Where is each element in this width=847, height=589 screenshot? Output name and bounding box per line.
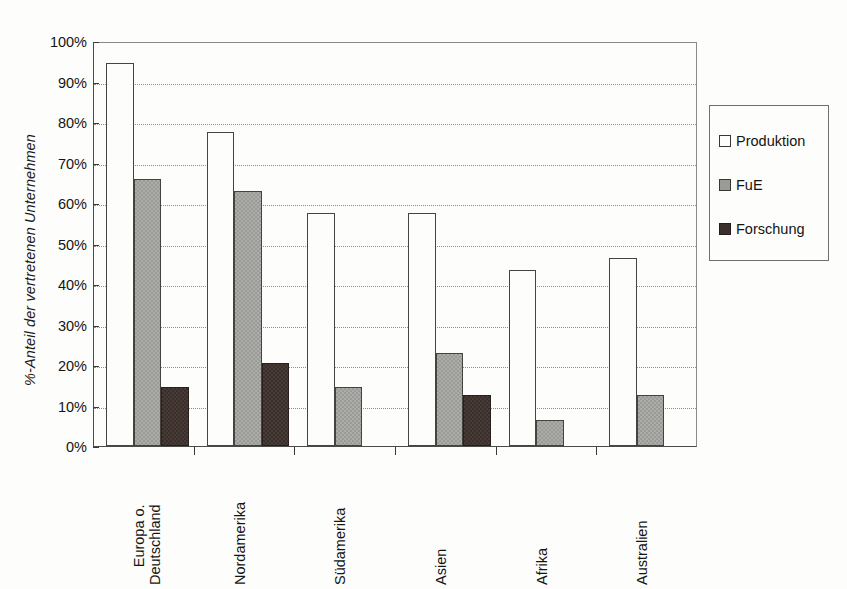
y-tick-mark-50: [93, 245, 99, 246]
legend-swatch-produktion-icon: [719, 135, 731, 147]
gridline-60: [94, 205, 696, 206]
x-tick-label-line: Europa o.: [131, 504, 147, 585]
x-tick-label-4: Afrika: [534, 548, 550, 585]
x-tick-label-line: Afrika: [534, 548, 550, 585]
y-tick-label-40: 40%: [33, 277, 87, 293]
y-axis-tick-labels: 100%90%80%70%60%50%40%30%20%10%0%: [29, 42, 87, 447]
bar-forschung-0: [161, 387, 189, 446]
x-tick-label-line: Südamerika: [332, 508, 348, 585]
y-tick-mark-40: [93, 285, 99, 286]
bar-fue-4: [536, 420, 564, 446]
gridline-20: [94, 367, 696, 368]
x-tick-label-0: Europa o.Deutschland: [131, 504, 163, 585]
bar-fue-2: [335, 387, 363, 446]
bar-fue-5: [637, 395, 665, 446]
bar-fue-0: [134, 179, 162, 446]
y-tick-label-60: 60%: [33, 196, 87, 212]
bar-produktion-4: [509, 270, 537, 446]
gridline-50: [94, 246, 696, 247]
legend-item-forschung[interactable]: Forschung: [719, 207, 828, 251]
y-tick-mark-100: [93, 42, 99, 43]
y-tick-label-100: 100%: [33, 34, 87, 50]
bar-produktion-1: [207, 132, 235, 446]
y-tick-mark-60: [93, 204, 99, 205]
y-tick-label-90: 90%: [33, 75, 87, 91]
gridline-40: [94, 286, 696, 287]
legend-label: Produktion: [736, 133, 805, 149]
y-tick-label-10: 10%: [33, 399, 87, 415]
y-tick-label-30: 30%: [33, 318, 87, 334]
x-tick-mark-5: [596, 447, 597, 455]
gridline-80: [94, 124, 696, 125]
y-tick-label-50: 50%: [33, 237, 87, 253]
x-tick-label-line: Deutschland: [147, 504, 163, 585]
legend-label: FuE: [736, 177, 763, 193]
y-tick-label-0: 0%: [33, 439, 87, 455]
x-tick-mark-1: [194, 447, 195, 455]
x-tick-mark-4: [496, 447, 497, 455]
y-tick-mark-0: [93, 447, 99, 448]
gridline-90: [94, 84, 696, 85]
y-tick-label-20: 20%: [33, 358, 87, 374]
bar-fue-1: [234, 191, 262, 446]
x-tick-label-line: Nordamerika: [232, 502, 248, 585]
x-tick-label-1: Nordamerika: [232, 502, 248, 585]
bar-forschung-3: [463, 395, 491, 446]
x-tick-mark-2: [294, 447, 295, 455]
legend: ProduktionFuEForschung: [709, 105, 829, 261]
bar-produktion-5: [609, 258, 637, 446]
bar-produktion-0: [106, 63, 134, 446]
x-tick-label-2: Südamerika: [332, 508, 348, 585]
y-tick-label-80: 80%: [33, 115, 87, 131]
x-tick-mark-3: [395, 447, 396, 455]
bar-chart-figure: %-Anteil der vertretenen Unternehmen 100…: [0, 0, 847, 589]
legend-label: Forschung: [736, 221, 805, 237]
y-tick-mark-30: [93, 326, 99, 327]
x-tick-label-line: Australien: [634, 521, 650, 585]
y-tick-mark-90: [93, 83, 99, 84]
gridline-30: [94, 327, 696, 328]
x-tick-label-5: Australien: [634, 521, 650, 585]
y-tick-mark-70: [93, 164, 99, 165]
legend-item-fue[interactable]: FuE: [719, 163, 828, 207]
y-tick-mark-10: [93, 407, 99, 408]
legend-item-produktion[interactable]: Produktion: [719, 119, 828, 163]
y-tick-mark-20: [93, 366, 99, 367]
legend-swatch-fue-icon: [719, 179, 731, 191]
bar-produktion-2: [307, 213, 335, 446]
y-tick-mark-80: [93, 123, 99, 124]
plot-area: [93, 42, 697, 447]
y-tick-label-70: 70%: [33, 156, 87, 172]
legend-swatch-forschung-icon: [719, 223, 731, 235]
bar-produktion-3: [408, 213, 436, 446]
bar-fue-3: [436, 353, 464, 446]
bar-forschung-1: [262, 363, 290, 446]
gridline-70: [94, 165, 696, 166]
x-tick-label-3: Asien: [433, 549, 449, 585]
x-tick-label-line: Asien: [433, 549, 449, 585]
